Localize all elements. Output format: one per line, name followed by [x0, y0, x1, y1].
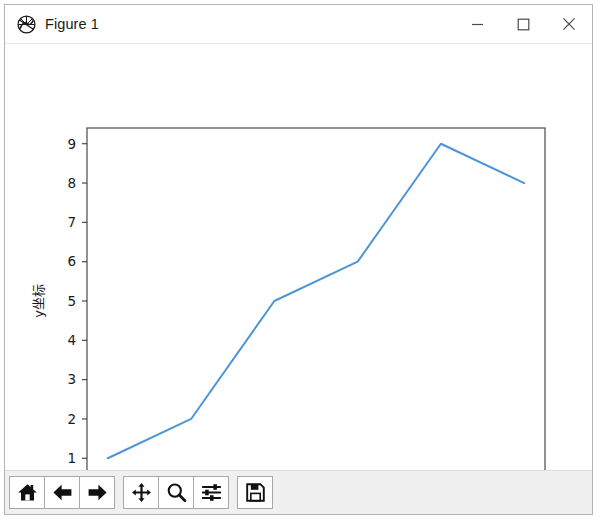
- zoom-button[interactable]: [158, 476, 194, 509]
- axes-frame: [87, 128, 545, 470]
- arrow-right-icon: [87, 482, 108, 503]
- title-bar: Figure 1: [5, 5, 592, 44]
- home-icon: [17, 482, 38, 503]
- home-button[interactable]: [9, 476, 45, 509]
- y-tick-label: 5: [67, 293, 76, 309]
- arrow-left-icon: [52, 482, 73, 503]
- navigation-toolbar: [5, 470, 592, 514]
- window-title: Figure 1: [45, 16, 99, 32]
- y-tick-label: 4: [67, 332, 76, 348]
- y-tick-label: 9: [67, 136, 76, 152]
- sliders-icon: [201, 482, 222, 503]
- close-button[interactable]: [546, 5, 592, 43]
- figure-canvas[interactable]: 012345 123456789 x坐标 y坐标: [5, 44, 592, 470]
- save-button[interactable]: [237, 476, 273, 509]
- line-chart: 012345 123456789 x坐标 y坐标: [5, 44, 592, 470]
- minimize-button[interactable]: [454, 5, 500, 43]
- back-button[interactable]: [44, 476, 80, 509]
- window-controls: [454, 5, 592, 43]
- magnifier-icon: [166, 482, 187, 503]
- y-tick-label: 7: [67, 214, 76, 230]
- y-axis-label: y坐标: [31, 284, 46, 318]
- y-tick-labels: 123456789: [67, 136, 76, 467]
- figure-window: Figure 1: [4, 4, 593, 515]
- y-tick-label: 8: [67, 175, 76, 191]
- toolbar-separator: [114, 476, 123, 509]
- toolbar-separator-2: [228, 476, 237, 509]
- y-tick-marks: [82, 144, 87, 459]
- pan-move-icon: [131, 482, 152, 503]
- floppy-disk-icon: [245, 482, 266, 503]
- y-tick-label: 6: [67, 253, 76, 269]
- matplotlib-logo-icon: [17, 15, 36, 34]
- configure-subplots-button[interactable]: [193, 476, 229, 509]
- y-tick-label: 2: [67, 411, 76, 427]
- y-tick-label: 1: [67, 450, 76, 466]
- pan-button[interactable]: [123, 476, 159, 509]
- forward-button[interactable]: [79, 476, 115, 509]
- maximize-button[interactable]: [500, 5, 546, 43]
- y-tick-label: 3: [67, 371, 76, 387]
